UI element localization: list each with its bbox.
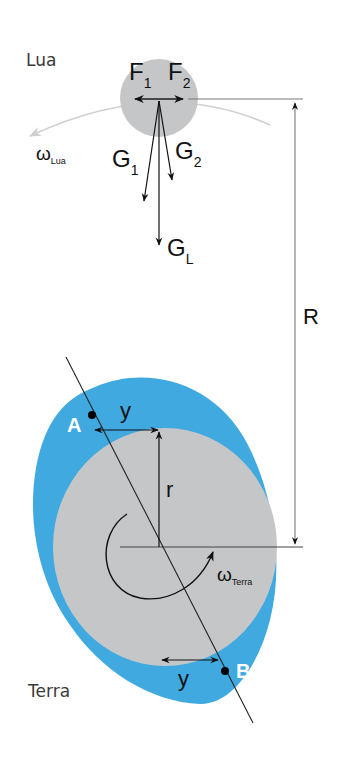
distance-label-r: R bbox=[303, 304, 319, 329]
point-b-dot bbox=[221, 667, 229, 675]
force-label-g1: G1 bbox=[112, 145, 139, 178]
point-a-dot bbox=[88, 411, 96, 419]
bulge-label-bottom: y bbox=[178, 666, 189, 691]
bulge-label-top: y bbox=[120, 398, 131, 423]
radius-label-r: r bbox=[166, 477, 173, 502]
force-label-gl: GL bbox=[167, 234, 194, 267]
earth-label: Terra bbox=[27, 681, 70, 701]
tidal-force-diagram: Lua F1 F2 G1 G2 GL ωLua R r y y A B ωTer… bbox=[0, 0, 345, 774]
moon-angular-velocity: ωLua bbox=[36, 143, 66, 166]
force-label-g2: G2 bbox=[175, 137, 202, 170]
moon-label: Lua bbox=[26, 50, 56, 70]
point-b-label: B bbox=[236, 660, 250, 682]
point-a-label: A bbox=[67, 414, 81, 436]
